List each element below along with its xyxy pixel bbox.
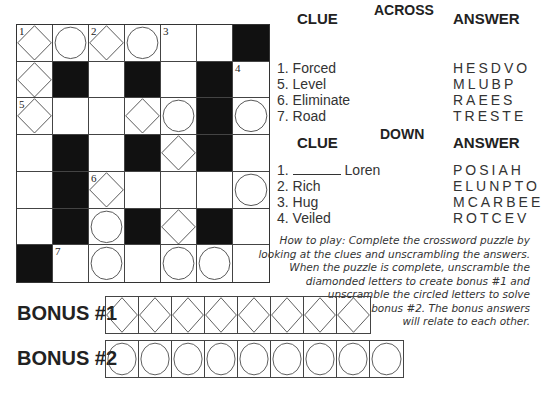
circle-icon	[233, 98, 269, 134]
diamond-letter-cell[interactable]	[161, 135, 197, 172]
bonus-circle-cell[interactable]	[238, 341, 271, 377]
circle-icon	[139, 341, 171, 377]
bonus-diamond-cell[interactable]	[304, 297, 337, 333]
letter-cell[interactable]: 3	[161, 25, 197, 62]
letter-cell[interactable]	[197, 25, 233, 62]
across-clue-6: 6. Eliminate	[277, 92, 350, 108]
diamond-icon	[172, 297, 204, 333]
bonus-1-label: BONUS #1	[17, 302, 117, 325]
diamond-icon	[17, 62, 52, 98]
bonus-2-label: BONUS #2	[17, 347, 117, 370]
clue-number: 3	[163, 25, 169, 37]
letter-cell[interactable]	[161, 62, 197, 99]
circle-icon	[89, 209, 124, 245]
bonus-diamond-cell[interactable]	[139, 297, 172, 333]
circle-icon	[271, 341, 303, 377]
circled-letter-cell[interactable]	[89, 245, 125, 282]
bonus-circle-cell[interactable]	[106, 341, 139, 377]
circle-icon	[370, 341, 403, 377]
bonus-circle-cell[interactable]	[139, 341, 172, 377]
fill-in-blank	[293, 162, 341, 175]
bonus-circle-cell[interactable]	[205, 341, 238, 377]
circled-letter-cell[interactable]	[233, 98, 269, 135]
diamond-letter-cell[interactable]: 1	[17, 25, 53, 62]
circled-letter-cell[interactable]	[161, 98, 197, 135]
letter-cell[interactable]	[125, 172, 161, 209]
bonus-circle-cell[interactable]	[271, 341, 304, 377]
letter-cell[interactable]	[161, 172, 197, 209]
black-square	[197, 135, 233, 172]
circle-icon	[337, 341, 369, 377]
bonus-circle-cell[interactable]	[172, 341, 205, 377]
bonus-diamond-cell[interactable]	[172, 297, 205, 333]
bonus-circle-cell[interactable]	[304, 341, 337, 377]
diamond-letter-cell[interactable]	[17, 62, 53, 99]
bonus-2-boxes	[105, 340, 404, 378]
diamond-letter-cell[interactable]: 6	[89, 172, 125, 209]
across-answer-7: TRESTE	[453, 108, 526, 124]
circle-icon	[233, 172, 269, 208]
circled-letter-cell[interactable]	[197, 245, 233, 282]
circled-letter-cell[interactable]	[53, 25, 89, 62]
bonus-circle-cell[interactable]	[337, 341, 370, 377]
across-title: ACROSS	[374, 2, 434, 18]
bonus-diamond-cell[interactable]	[238, 297, 271, 333]
letter-cell[interactable]	[197, 172, 233, 209]
bonus-diamond-cell[interactable]	[106, 297, 139, 333]
circled-letter-cell[interactable]	[89, 209, 125, 246]
black-square	[125, 209, 161, 246]
circled-letter-cell[interactable]	[161, 245, 197, 282]
across-clue-1: 1. Forced	[277, 60, 336, 76]
circle-icon	[172, 341, 204, 377]
circled-letter-cell[interactable]	[125, 25, 161, 62]
bonus-diamond-cell[interactable]	[337, 297, 370, 333]
circle-icon	[106, 341, 138, 377]
down-clue-3: 3. Hug	[277, 194, 318, 210]
bonus-diamond-cell[interactable]	[205, 297, 238, 333]
bonus-diamond-cell[interactable]	[271, 297, 304, 333]
circled-letter-cell[interactable]	[233, 172, 269, 209]
diamond-letter-cell[interactable]	[125, 98, 161, 135]
diamond-letter-cell[interactable]: 2	[89, 25, 125, 62]
diamond-icon	[125, 98, 160, 134]
diamond-icon	[161, 135, 196, 171]
black-square	[53, 209, 89, 246]
letter-cell[interactable]	[89, 98, 125, 135]
down-answer-2: ELUNPTO	[453, 178, 540, 194]
down-answer-3: MCARBEE	[453, 194, 543, 210]
down-title: DOWN	[380, 126, 424, 142]
circle-icon	[238, 341, 270, 377]
bonus-circle-cell[interactable]	[370, 341, 403, 377]
diamond-icon	[139, 297, 171, 333]
diamond-icon	[238, 297, 270, 333]
down-clue-4: 4. Veiled	[277, 210, 331, 226]
diamond-icon	[106, 297, 138, 333]
diamond-icon	[271, 297, 303, 333]
circle-icon	[161, 98, 196, 134]
letter-cell[interactable]	[89, 62, 125, 99]
across-answer-5: MLUBP	[453, 76, 516, 92]
clue-number: 6	[91, 172, 97, 184]
across-answer-6: RAEES	[453, 92, 515, 108]
black-square	[53, 62, 89, 99]
letter-cell[interactable]	[233, 135, 269, 172]
diamond-letter-cell[interactable]: 5	[17, 98, 53, 135]
letter-cell[interactable]	[125, 245, 161, 282]
across-answer-1: HESDVO	[453, 60, 530, 76]
letter-cell[interactable]: 4	[233, 62, 269, 99]
clue-number: 5	[19, 98, 25, 110]
clue-number: 1	[19, 25, 25, 37]
bonus-1-boxes	[105, 296, 371, 334]
letter-cell[interactable]	[89, 135, 125, 172]
clue-number: 2	[91, 25, 97, 37]
letter-cell[interactable]	[53, 98, 89, 135]
letter-cell[interactable]: 7	[53, 245, 89, 282]
down-answer-header: ANSWER	[453, 134, 520, 151]
diamond-letter-cell[interactable]	[161, 209, 197, 246]
circle-icon	[304, 341, 336, 377]
diamond-icon	[304, 297, 336, 333]
letter-cell[interactable]	[17, 135, 53, 172]
black-square	[125, 62, 161, 99]
letter-cell[interactable]	[17, 172, 53, 209]
letter-cell[interactable]	[17, 209, 53, 246]
